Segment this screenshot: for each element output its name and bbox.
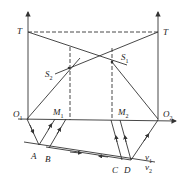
- ray-o1-to-a-arrow: [30, 125, 33, 132]
- label-m2: M2: [118, 108, 129, 119]
- label-c: C: [112, 166, 118, 175]
- label-a: A: [31, 152, 37, 161]
- diagram-canvas: [0, 0, 187, 180]
- label-m1: M1: [53, 108, 64, 119]
- s1-point: [111, 61, 114, 64]
- s2-point: [68, 67, 71, 70]
- label-s2: S2: [45, 70, 53, 81]
- label-v2: v2: [145, 163, 152, 174]
- ray-c-to-m2-arrow: [116, 137, 117, 142]
- label-o1: O1: [13, 110, 23, 121]
- label-o2: O2: [163, 110, 173, 121]
- ray-d-to-m2-arrow: [125, 137, 126, 142]
- label-s1: S1: [121, 53, 129, 64]
- ray-b-to-m1-arrow: [57, 129, 60, 134]
- label-b: B: [45, 155, 51, 164]
- label-t-left: T: [17, 27, 22, 36]
- ray-d-to-o2-arrow: [144, 135, 148, 141]
- label-t-right: T: [163, 28, 168, 37]
- bottom-line-v1: [24, 142, 155, 162]
- label-d: D: [124, 166, 131, 175]
- baseline-axis: [18, 119, 176, 121]
- ray-a-to-m1-arrow: [48, 125, 51, 130]
- bottom-line-v2: [46, 147, 131, 160]
